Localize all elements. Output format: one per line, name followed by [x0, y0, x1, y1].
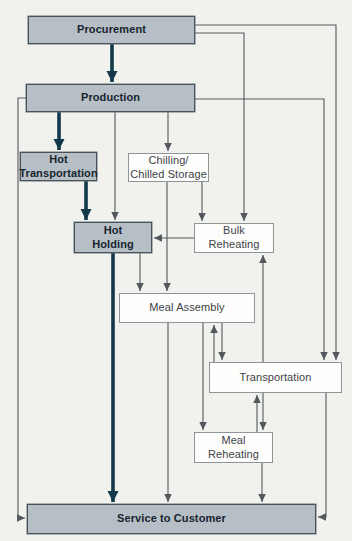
node-production: Production — [26, 84, 195, 112]
node-meal-assembly: Meal Assembly — [119, 293, 255, 323]
node-label-procurement: Procurement — [77, 23, 146, 37]
node-hot-transportation: Hot Transportation — [20, 152, 97, 181]
node-label-meal-assembly: Meal Assembly — [149, 301, 224, 315]
node-procurement: Procurement — [28, 16, 195, 44]
node-transportation: Transportation — [209, 362, 342, 393]
node-label-hot-transportation: Hot Transportation — [19, 153, 97, 181]
node-bulk-reheating: Bulk Reheating — [194, 223, 274, 253]
node-label-transportation: Transportation — [240, 371, 312, 385]
node-hot-holding: Hot Holding — [74, 222, 152, 253]
flow-edges-layer — [0, 0, 352, 541]
node-label-chilled-storage: Chilling/ Chilled Storage — [130, 154, 207, 182]
flowchart-canvas: ProcurementProductionHot TransportationC… — [0, 0, 352, 541]
node-label-hot-holding: Hot Holding — [92, 224, 134, 252]
node-chilled-storage: Chilling/ Chilled Storage — [128, 153, 209, 182]
node-meal-reheating: Meal Reheating — [194, 432, 273, 463]
node-label-meal-reheating: Meal Reheating — [208, 434, 259, 462]
node-label-production: Production — [81, 91, 140, 105]
node-label-service-to-customer: Service to Customer — [117, 512, 226, 526]
node-service-to-customer: Service to Customer — [27, 504, 316, 534]
node-label-bulk-reheating: Bulk Reheating — [208, 224, 259, 252]
arrow-transportation-to-service — [318, 393, 326, 517]
